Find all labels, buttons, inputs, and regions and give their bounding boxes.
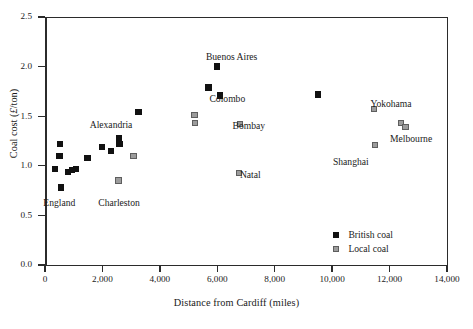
x-tick-label: 2,000 bbox=[72, 275, 132, 284]
x-tick bbox=[389, 265, 390, 272]
y-tick bbox=[38, 16, 45, 17]
data-point-british bbox=[56, 153, 62, 159]
x-tick bbox=[44, 265, 45, 272]
x-tick bbox=[331, 265, 332, 272]
data-point-local bbox=[372, 142, 378, 148]
legend-swatch-local bbox=[333, 246, 339, 252]
legend-item-british: British coal bbox=[333, 228, 393, 242]
y-tick bbox=[38, 215, 45, 216]
x-tick-label: 8,000 bbox=[245, 275, 305, 284]
x-tick-label: 12,000 bbox=[360, 275, 420, 284]
x-tick-label: 14,000 bbox=[417, 275, 473, 284]
data-point-local bbox=[115, 177, 121, 183]
data-point-british bbox=[52, 166, 58, 172]
annotation-label: Buenos Aires bbox=[206, 52, 257, 62]
data-point-local bbox=[192, 120, 198, 126]
data-point-british bbox=[135, 109, 141, 115]
y-tick bbox=[38, 116, 45, 117]
x-tick-label: 6,000 bbox=[187, 275, 247, 284]
annotation-label: England bbox=[43, 198, 75, 208]
x-axis-title: Distance from Cardiff (miles) bbox=[0, 297, 473, 308]
annotation-label: Bombay bbox=[233, 121, 266, 131]
data-point-british bbox=[73, 166, 79, 172]
annotation-label: Colombo bbox=[209, 95, 245, 105]
legend-item-local: Local coal bbox=[333, 242, 393, 256]
annotation-label: Yokohama bbox=[370, 99, 411, 109]
legend-label-local: Local coal bbox=[348, 244, 388, 254]
pound-symbol: £ bbox=[8, 108, 19, 113]
annotation-label: Charleston bbox=[98, 198, 140, 208]
y-axis-title-prefix: Coal cost ( bbox=[8, 114, 19, 159]
legend-swatch-british bbox=[333, 232, 339, 238]
x-tick bbox=[446, 265, 447, 272]
x-tick bbox=[102, 265, 103, 272]
x-tick bbox=[274, 265, 275, 272]
y-tick-label: 0.0 bbox=[0, 260, 32, 269]
data-point-british bbox=[99, 144, 105, 150]
y-tick-label: 2.5 bbox=[0, 12, 32, 21]
data-point-british bbox=[84, 155, 90, 161]
data-point-local bbox=[191, 112, 197, 118]
legend-label-british: British coal bbox=[348, 230, 393, 240]
data-point-local bbox=[402, 124, 408, 130]
data-point-british bbox=[116, 141, 122, 147]
data-point-british bbox=[108, 148, 114, 154]
annotation-label: Alexandria bbox=[90, 120, 133, 130]
x-tick-label: 0 bbox=[15, 275, 75, 284]
data-point-british bbox=[214, 63, 220, 69]
chart-legend: British coalLocal coal bbox=[333, 228, 393, 256]
data-point-local bbox=[130, 153, 136, 159]
y-tick bbox=[38, 66, 45, 67]
data-point-british bbox=[57, 141, 63, 147]
y-tick bbox=[38, 165, 45, 166]
x-tick bbox=[159, 265, 160, 272]
annotation-label: Melbourne bbox=[390, 134, 432, 144]
x-tick-label: 4,000 bbox=[130, 275, 190, 284]
data-point-british bbox=[58, 184, 64, 190]
data-point-british bbox=[205, 84, 211, 90]
y-tick-label: 0.5 bbox=[0, 211, 32, 220]
x-tick bbox=[217, 265, 218, 272]
y-axis-title: Coal cost (£/ton) bbox=[8, 49, 19, 199]
x-tick-label: 10,000 bbox=[302, 275, 362, 284]
annotation-label: Natal bbox=[240, 170, 261, 180]
annotation-label: Shanghai bbox=[333, 157, 369, 167]
data-point-british bbox=[315, 91, 321, 97]
y-axis-title-suffix: /ton) bbox=[8, 89, 19, 108]
coal-cost-scatter-chart: 0.00.51.01.52.02.502,0004,0006,0008,0001… bbox=[0, 0, 473, 329]
